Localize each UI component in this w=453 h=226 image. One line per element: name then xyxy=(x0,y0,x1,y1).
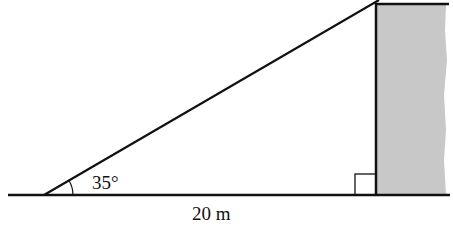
angle-label: 35° xyxy=(92,172,119,194)
triangle-diagram xyxy=(0,0,453,226)
hypotenuse-line xyxy=(44,0,379,195)
wall-shading xyxy=(377,5,447,195)
right-angle-marker xyxy=(355,174,376,195)
base-length-label: 20 m xyxy=(192,203,231,225)
angle-arc xyxy=(69,181,73,196)
